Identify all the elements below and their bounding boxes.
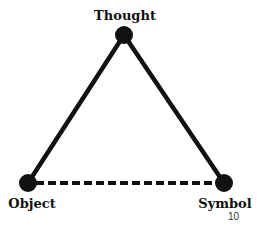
label-thought: Thought <box>94 8 156 23</box>
label-object: Object <box>8 196 55 211</box>
node-object <box>19 174 37 192</box>
edge-thought-symbol <box>124 35 224 183</box>
page-number: 10 <box>228 211 240 222</box>
edge-thought-object <box>28 35 124 183</box>
label-symbol: Symbol <box>198 196 251 211</box>
node-thought <box>115 26 133 44</box>
node-symbol <box>215 174 233 192</box>
semiotic-triangle-diagram: Thought Object Symbol 10 <box>0 0 257 228</box>
